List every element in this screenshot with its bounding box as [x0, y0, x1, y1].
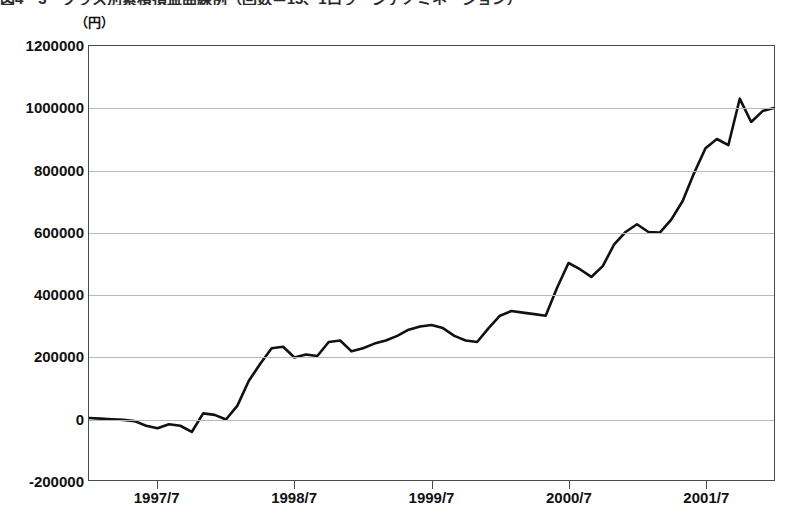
- x-axis-tick-label: 2000/7: [546, 489, 592, 506]
- y-axis-tick-label: -200000: [2, 473, 84, 490]
- grid-line: [89, 233, 774, 234]
- x-axis-tick-mark: [706, 480, 707, 489]
- x-axis-tick-labels: 1997/71998/71999/72000/72001/7: [88, 489, 775, 513]
- plot-area: [88, 45, 775, 481]
- y-axis-tick-label: 200000: [2, 348, 84, 365]
- y-axis-tick-label: 1000000: [2, 99, 84, 116]
- x-axis-tick-label: 1997/7: [134, 489, 180, 506]
- data-series-line: [89, 46, 774, 480]
- x-axis-tick-label: 1998/7: [271, 489, 317, 506]
- x-axis-tick-mark: [432, 480, 433, 489]
- y-axis-tick-label: 400000: [2, 286, 84, 303]
- series-polyline: [89, 99, 774, 432]
- y-axis-tick-labels: 120000010000008000006000004000002000000-…: [0, 0, 84, 520]
- y-axis-tick-label: 800000: [2, 161, 84, 178]
- x-axis-tick-mark: [294, 480, 295, 489]
- x-axis-tick-mark: [157, 480, 158, 489]
- grid-line: [89, 357, 774, 358]
- grid-line: [89, 171, 774, 172]
- x-axis-tick-label: 1999/7: [409, 489, 455, 506]
- y-axis-tick-label: 600000: [2, 223, 84, 240]
- figure-title: 図4－3 クラス別累積損益曲線例（回数＝13、1口ラージデノミネーション）: [0, 0, 796, 5]
- x-axis-tick-mark: [569, 480, 570, 489]
- grid-line: [89, 108, 774, 109]
- chart-figure: 図4－3 クラス別累積損益曲線例（回数＝13、1口ラージデノミネーション） （円…: [0, 0, 796, 520]
- grid-line: [89, 420, 774, 421]
- y-axis-tick-label: 0: [2, 410, 84, 427]
- y-axis-tick-label: 1200000: [2, 37, 84, 54]
- grid-line: [89, 295, 774, 296]
- x-axis-tick-label: 2001/7: [683, 489, 729, 506]
